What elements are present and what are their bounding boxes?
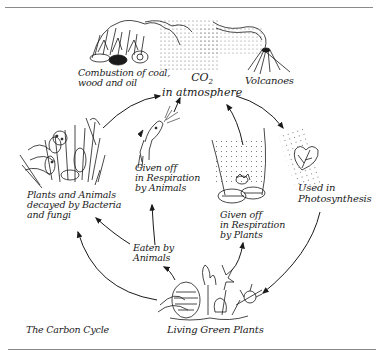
photosynthesis-line2: Photosynthesis (298, 194, 372, 205)
arrow-plants-to-plant-respiration (232, 243, 243, 270)
co2-atmosphere-label: CO2 in atmosphere (162, 72, 242, 98)
plants-icon (158, 265, 262, 320)
volcano-smoke-dots (200, 28, 262, 56)
arrow-eaten-to-decay (96, 218, 130, 244)
green-plants-label: Living Green Plants (167, 325, 264, 336)
plant-respiration-dots (215, 140, 263, 182)
eaten-line2: Animals (133, 253, 174, 263)
co2-subscript: 2 (209, 78, 213, 86)
decay-label: Plants and Animals decayed by Bacteria a… (27, 190, 121, 220)
animal-breath-lines (164, 106, 180, 123)
plant-respiration-line3: by Plants (220, 230, 285, 240)
animal-respiration-line3: by Animals (135, 183, 200, 193)
arrow-atmosphere-to-photosynthesis (236, 96, 283, 128)
atmosphere-label: in atmosphere (162, 87, 242, 99)
arrow-animal-respiration-to-atmosphere (174, 98, 180, 112)
eaten-label: Eaten by Animals (133, 243, 174, 263)
plant-respiration-label: Given off in Respiration by Plants (220, 210, 285, 240)
co2-text: CO (191, 71, 208, 84)
diagram-title: The Carbon Cycle (26, 325, 109, 335)
co2-label: CO2 (162, 72, 242, 87)
combustion-label: Combustion of coal, wood and oil (78, 68, 170, 88)
arrow-eaten-to-animal-respiration (152, 205, 155, 245)
decay-label-line3: and fungi (27, 210, 121, 220)
arrow-plants-to-eaten (164, 267, 175, 280)
photosynthesis-line1: Used in (298, 183, 372, 194)
photosynthesis-label: Used in Photosynthesis (298, 183, 372, 204)
arrow-plant-respiration-to-atmosphere (227, 105, 243, 145)
combustion-label-line2: wood and oil (78, 78, 170, 88)
volcanoes-label: Volcanoes (245, 76, 294, 87)
animal-head-icon (138, 121, 163, 168)
animal-respiration-label: Given off in Respiration by Animals (135, 163, 200, 193)
decaying-matter-icon (20, 118, 105, 188)
arrow-decay-to-atmosphere (103, 96, 160, 128)
